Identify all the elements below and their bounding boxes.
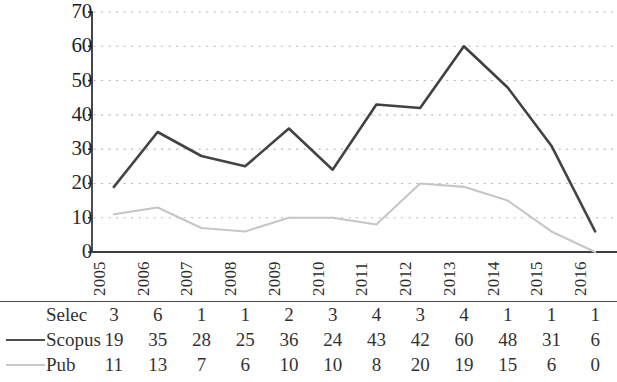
- table-cell: 25: [222, 329, 268, 350]
- table-cell: 1: [485, 304, 531, 325]
- table-cell: 19: [441, 354, 487, 375]
- table-cell: 20: [397, 354, 443, 375]
- x-axis-tick-label-2005: 2005: [91, 256, 137, 302]
- table-cell: 1: [572, 304, 617, 325]
- table-cell: 19: [91, 329, 137, 350]
- x-axis-tick-label-2014: 2014: [485, 256, 531, 302]
- table-cell: 7: [178, 354, 224, 375]
- x-axis-tick-label-2016: 2016: [572, 256, 617, 302]
- series-line-scopus: [114, 46, 595, 231]
- y-axis-tick-labels: 010203040506070: [46, 0, 92, 258]
- table-row: Scopus19352825362443426048316: [0, 327, 617, 352]
- x-axis-tick-labels: 2005200620072008200920102011201220132014…: [0, 256, 617, 302]
- y-axis-tick-label: 30: [46, 138, 92, 159]
- table-cell: 6: [222, 354, 268, 375]
- table-cell: 36: [266, 329, 312, 350]
- table-cell: 6: [528, 354, 574, 375]
- x-axis-tick-label-2010: 2010: [310, 256, 356, 302]
- table-cell: 10: [266, 354, 312, 375]
- table-cell: 0: [572, 354, 617, 375]
- table-cell: 35: [135, 329, 181, 350]
- table-cell: 10: [310, 354, 356, 375]
- y-axis-tick-label: 40: [46, 104, 92, 125]
- table-cell: 8: [353, 354, 399, 375]
- table-cell: 24: [310, 329, 356, 350]
- y-axis-tick-label: 10: [46, 207, 92, 228]
- y-axis-tick-label: 20: [46, 172, 92, 193]
- chart-canvas: [0, 0, 617, 258]
- figure-line-chart-with-data-table: 010203040506070 200520062007200820092010…: [0, 0, 617, 382]
- legend-line-swatch-scopus: [6, 339, 45, 341]
- x-axis-tick-label-2011: 2011: [353, 256, 399, 302]
- table-row: Pub1113761010820191560: [0, 352, 617, 377]
- table-cell: 3: [310, 304, 356, 325]
- table-cell: 6: [135, 304, 181, 325]
- table-cell: 1: [178, 304, 224, 325]
- x-axis-tick-label-2007: 2007: [178, 256, 224, 302]
- x-axis-tick-label-2009: 2009: [266, 256, 312, 302]
- table-cell: 42: [397, 329, 443, 350]
- table-cell: 4: [353, 304, 399, 325]
- table-cell: 28: [178, 329, 224, 350]
- table-cell: 4: [441, 304, 487, 325]
- table-cell: 3: [91, 304, 137, 325]
- table-cell: 43: [353, 329, 399, 350]
- table-cell: 2: [266, 304, 312, 325]
- x-axis-tick-label-2013: 2013: [441, 256, 487, 302]
- x-axis-tick-label-2008: 2008: [222, 256, 268, 302]
- table-cell: 48: [485, 329, 531, 350]
- table-cell: 11: [91, 354, 137, 375]
- legend-line-swatch-pub: [6, 364, 45, 366]
- table-cell: 13: [135, 354, 181, 375]
- table-row: Selec361123434111: [0, 302, 617, 327]
- x-axis-tick-label-2012: 2012: [397, 256, 443, 302]
- plot-area: 010203040506070: [0, 0, 617, 258]
- table-cell: 60: [441, 329, 487, 350]
- table-cell: 3: [397, 304, 443, 325]
- x-axis-tick-label-2015: 2015: [528, 256, 574, 302]
- y-axis-tick-label: 70: [46, 1, 92, 22]
- table-cell: 31: [528, 329, 574, 350]
- table-cell: 15: [485, 354, 531, 375]
- chart-data-table: Selec361123434111Scopus19352825362443426…: [0, 301, 617, 382]
- x-axis-tick-label-2006: 2006: [135, 256, 181, 302]
- y-axis-tick-label: 60: [46, 35, 92, 56]
- table-cell: 1: [222, 304, 268, 325]
- table-cell: 6: [572, 329, 617, 350]
- y-axis-tick-label: 50: [46, 70, 92, 91]
- table-cell: 1: [528, 304, 574, 325]
